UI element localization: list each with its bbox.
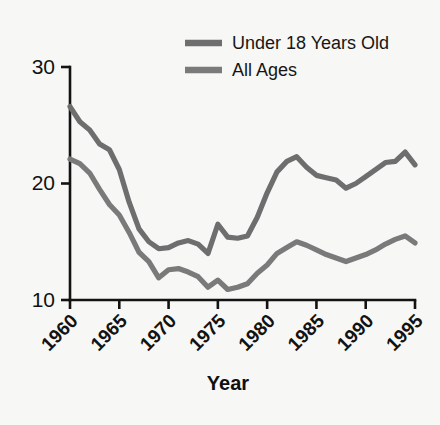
x-tick-label-1965: 1965 <box>86 310 131 355</box>
x-tick-label-1975: 1975 <box>185 310 230 355</box>
y-tick-label-20: 20 <box>32 171 55 194</box>
x-tick-label-1970: 1970 <box>136 310 181 355</box>
legend: Under 18 Years Old All Ages <box>185 33 389 80</box>
x-tick-label-1985: 1985 <box>284 310 329 355</box>
x-tick-group: 19601965197019751980198519901995 <box>37 300 427 355</box>
y-axis: 102030 <box>32 55 70 311</box>
line-chart: Under 18 Years Old All Ages 102030 19601… <box>0 0 440 425</box>
legend-label-all-ages: All Ages <box>232 60 297 80</box>
y-tick-group: 102030 <box>32 55 70 311</box>
x-tick-label-1995: 1995 <box>382 310 427 355</box>
series-line-under-18-years-old <box>70 107 415 254</box>
x-axis: 19601965197019751980198519901995 <box>37 300 427 355</box>
legend-label-under-18-years-old: Under 18 Years Old <box>232 33 389 53</box>
x-tick-label-1960: 1960 <box>37 310 82 355</box>
series-group <box>70 107 415 290</box>
y-tick-label-30: 30 <box>32 55 55 78</box>
x-axis-title: Year <box>207 372 249 394</box>
x-tick-label-1990: 1990 <box>333 310 378 355</box>
y-tick-label-10: 10 <box>32 288 55 311</box>
x-tick-label-1980: 1980 <box>234 310 279 355</box>
chart-container: Under 18 Years Old All Ages 102030 19601… <box>0 0 440 425</box>
